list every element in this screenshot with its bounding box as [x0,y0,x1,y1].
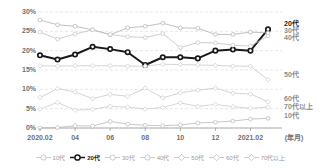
x-axis-tick-label: 2020.02 [27,134,52,141]
data-point [125,64,130,69]
data-point [248,92,253,97]
data-point [213,120,217,124]
x-axis-tick-label: 2021.02 [238,134,263,141]
end-label-40代: 40代 [284,33,299,42]
data-point [108,33,112,37]
y-axis-tick-label: 25% [22,27,37,34]
y-axis-tick-label: 5% [26,105,37,112]
data-point [90,63,95,68]
circle-marker-icon [36,153,51,162]
data-point [231,119,235,123]
series-50代 [38,62,271,82]
chart-canvas: 0%5%10%15%20%25%30% 2020.020406081012202… [0,0,321,146]
data-point [196,26,200,30]
data-point [249,117,253,121]
data-point [91,124,95,128]
data-point [231,43,235,47]
chart-plot-area: 0%5%10%15%20%25%30% 2020.020406081012202… [0,0,321,146]
data-point [108,47,112,51]
data-point [108,104,113,109]
data-point [143,123,147,127]
y-axis-ticks: 0%5%10%15%20%25%30% [22,8,37,131]
data-point [160,62,165,67]
data-point [196,41,200,45]
end-label-70代以上: 70代以上 [284,102,313,111]
data-point [38,53,42,57]
data-point [249,44,253,48]
x-axis-ticks: 2020.0204060810122021.02(年月) [27,128,303,142]
diamond-marker-icon [174,153,189,162]
data-point [55,100,60,105]
legend-label: 10代 [53,153,66,162]
legend-item-40代[interactable]: 40代 [140,153,170,162]
data-point [55,64,60,69]
legend-item-10代[interactable]: 10代 [36,153,66,162]
data-point [160,96,165,101]
data-point [213,48,217,52]
y-axis-tick-label: 30% [22,8,37,15]
data-point [73,52,77,56]
data-point [178,91,183,96]
data-point [231,47,235,51]
data-point [56,37,60,41]
data-point [213,33,217,37]
line-chart: 0%5%10%15%20%25%30% 2020.020406081012202… [0,0,321,168]
data-point [126,26,130,30]
data-point [126,35,130,39]
data-point [143,24,147,28]
data-point [196,88,201,93]
data-point [91,28,95,32]
data-point [56,23,60,27]
data-point [161,32,165,36]
chart-legend: 10代20代30代40代50代60代70代以上 [0,146,321,168]
data-point [108,120,112,124]
data-point [266,116,270,120]
data-point [73,124,77,128]
data-point [178,62,183,67]
data-point [73,32,77,36]
legend-item-30代[interactable]: 30代 [105,153,135,162]
data-point [108,92,113,97]
data-point [231,104,236,109]
data-point [143,86,148,91]
data-point [178,101,183,106]
series-20代 [38,27,270,67]
legend-item-20代[interactable]: 20代 [70,153,100,162]
data-point [161,124,165,128]
data-point [143,107,148,112]
end-label-50代: 50代 [284,70,299,79]
data-point [266,99,271,104]
data-point [55,57,59,61]
data-point [231,91,236,96]
data-point [90,96,95,101]
circle-marker-icon [140,153,155,162]
data-point [248,48,252,52]
data-point [196,104,201,109]
data-point [178,55,182,59]
y-axis-tick-label: 20% [22,47,37,54]
legend-item-50代[interactable]: 50代 [174,153,204,162]
legend-item-70代以上[interactable]: 70代以上 [244,153,286,162]
diamond-marker-icon [209,153,224,162]
data-point [38,18,42,22]
y-axis-tick-label: 10% [22,85,37,92]
legend-label: 30代 [122,153,135,162]
data-point [160,105,165,110]
y-axis-tick-label: 15% [22,66,37,73]
x-axis-tick-label: 10 [176,134,184,141]
data-point [73,63,78,68]
circle-marker-icon [70,153,85,162]
circle-marker-icon [105,153,120,162]
data-point [231,64,236,69]
legend-item-60代[interactable]: 60代 [209,153,239,162]
data-point [90,107,95,112]
data-point [196,63,201,68]
series-60代 [38,86,271,104]
diamond-marker-icon [244,153,259,162]
data-point [266,34,270,38]
legend-label: 20代 [87,153,100,162]
legend-label: 40代 [157,153,170,162]
data-point [213,86,218,91]
data-point [73,24,77,28]
data-point [161,55,165,59]
